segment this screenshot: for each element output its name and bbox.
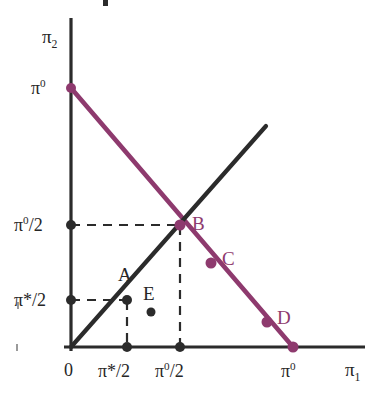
x-tick-pi0-base: π <box>281 361 290 381</box>
x-axis-label-sub: 1 <box>355 371 361 384</box>
data-point-C <box>206 258 217 269</box>
x-tick-origin-text: 0 <box>64 360 73 380</box>
x-tick-label-pistar-half: π*/2 <box>98 361 130 380</box>
marker-x-pi0-half <box>175 342 185 352</box>
x-tick-pistar-half-base: π* <box>98 361 116 381</box>
point-label-C: C <box>222 249 235 268</box>
y-tick-pi0-base: π <box>31 78 40 98</box>
marker-y-pi0 <box>66 83 76 93</box>
marker-y-pistar-half <box>66 295 76 305</box>
data-point-A <box>122 295 132 305</box>
y-axis-label-base: π <box>42 26 52 47</box>
y-axis-label-sub: 2 <box>52 38 58 51</box>
x-tick-label-origin: 0 <box>64 361 73 379</box>
point-label-B: B <box>192 214 205 233</box>
x-tick-label-pi0: π0 <box>281 361 296 380</box>
scan-speck-top <box>103 0 108 6</box>
x-tick-pi0-half-frac: /2 <box>170 361 184 381</box>
diagonal-45-line <box>71 126 266 347</box>
x-tick-pistar-half-frac: /2 <box>116 361 130 381</box>
scan-speck-left-lower <box>16 344 18 351</box>
marker-y-pi0-half <box>66 220 76 230</box>
y-tick-pi0-half-base: π <box>14 215 23 235</box>
y-tick-label-pi0: π0 <box>31 78 46 97</box>
x-axis-label-base: π <box>345 359 355 380</box>
point-label-E: E <box>143 284 155 303</box>
y-tick-label-pi0-half: π0/2 <box>14 215 43 234</box>
x-tick-pi0-sup: 0 <box>290 360 296 372</box>
data-point-E <box>147 308 156 317</box>
y-tick-label-pistar-half: π*/2 <box>14 290 46 309</box>
y-tick-pi0-half-frac: /2 <box>29 215 43 235</box>
economics-plot-figure <box>0 0 387 397</box>
x-tick-label-pi0-half: π0/2 <box>155 361 184 380</box>
marker-x-pistar-half <box>122 342 132 352</box>
data-point-D <box>262 317 273 328</box>
x-tick-pi0-half-base: π <box>155 361 164 381</box>
series-group <box>71 88 293 347</box>
marker-x-pi0 <box>288 342 299 353</box>
y-tick-pistar-half-frac: /2 <box>32 290 46 310</box>
point-label-A: A <box>118 265 132 284</box>
y-tick-pistar-half-base: π* <box>14 290 32 310</box>
data-point-B <box>175 220 186 231</box>
x-axis-label: π1 <box>345 360 360 384</box>
point-label-D: D <box>277 308 291 327</box>
y-axis-label: π2 <box>42 27 57 51</box>
y-tick-pi0-sup: 0 <box>40 77 46 89</box>
